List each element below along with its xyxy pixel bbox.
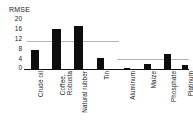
- y-axis-title: RMSE: [9, 6, 30, 13]
- bar-coffee-robusta: [52, 29, 61, 69]
- x-label-tin: Tin: [104, 71, 111, 80]
- y-tick-label-16: 16: [8, 26, 22, 33]
- rmse-bar-chart: RMSE 20 16 12 8 4 0 Crude oil Coffee, Ro…: [0, 0, 193, 124]
- bar-crude-oil: [31, 50, 39, 69]
- y-tick-label-4: 4: [8, 56, 22, 63]
- reference-line-right-group: [117, 59, 189, 60]
- x-label-platinum: Platinum: [188, 71, 193, 96]
- x-label-maize: Maize: [151, 71, 158, 88]
- y-tick-label-20: 20: [8, 16, 22, 23]
- plot-area: [27, 18, 189, 69]
- x-label-natural-rubber: Natural rubber: [82, 71, 89, 113]
- bar-aluminum: [124, 68, 130, 69]
- bar-tin: [97, 58, 104, 69]
- y-tick-label-12: 12: [8, 36, 22, 43]
- reference-line-left-group: [27, 41, 119, 42]
- x-label-coffee-robusta: Coffee, Robusta: [60, 71, 73, 95]
- x-label-aluminum: Aluminum: [130, 71, 137, 100]
- bar-platinum: [182, 65, 188, 69]
- bar-natural-rubber: [74, 26, 83, 69]
- y-tick-label-8: 8: [8, 46, 22, 53]
- y-tick-label-0: 0: [8, 65, 22, 72]
- bar-maize: [144, 64, 151, 69]
- x-label-phosphate: Phosphate: [171, 71, 178, 102]
- bar-phosphate: [164, 54, 171, 69]
- x-label-crude-oil: Crude oil: [38, 71, 45, 97]
